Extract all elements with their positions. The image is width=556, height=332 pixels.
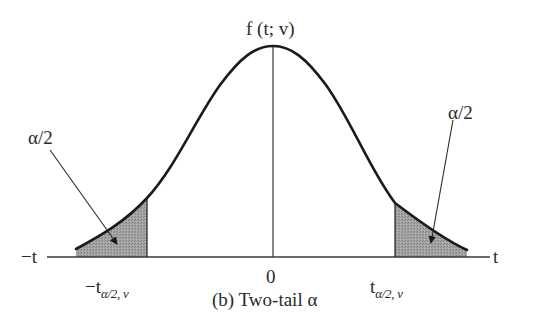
- t-distribution-plot: [0, 0, 556, 332]
- left-critical-value-label: −tα/2, v: [85, 277, 128, 296]
- left-critical-main: −t: [85, 276, 101, 297]
- right-tail-alpha-label: α/2: [448, 103, 473, 122]
- figure-caption: (b) Two-tail α: [212, 290, 317, 309]
- right-tail-arrow: [431, 120, 453, 243]
- left-tail-alpha-label: α/2: [28, 128, 53, 147]
- left-critical-subscript: α/2, v: [101, 286, 128, 301]
- axis-right-label: t: [493, 247, 498, 266]
- t-distribution-figure: f (t; v) α/2 α/2 −t t 0 −tα/2, v tα/2, v…: [0, 0, 556, 332]
- right-critical-value-label: tα/2, v: [370, 277, 403, 296]
- right-critical-subscript: α/2, v: [375, 286, 402, 301]
- center-tick-label: 0: [266, 267, 276, 286]
- y-axis-label: f (t; v): [246, 19, 295, 38]
- axis-left-label: −t: [21, 247, 37, 266]
- left-tail-arrow: [50, 150, 117, 244]
